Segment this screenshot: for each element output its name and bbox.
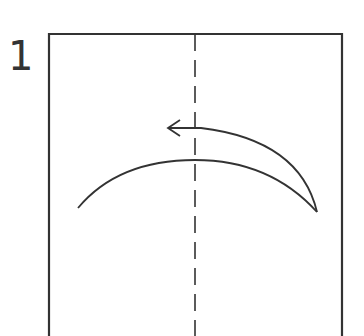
paper-outline bbox=[49, 34, 342, 336]
step-number: 1 bbox=[8, 33, 33, 79]
fold-arc bbox=[78, 160, 317, 212]
origami-diagram: 1 bbox=[0, 0, 364, 336]
